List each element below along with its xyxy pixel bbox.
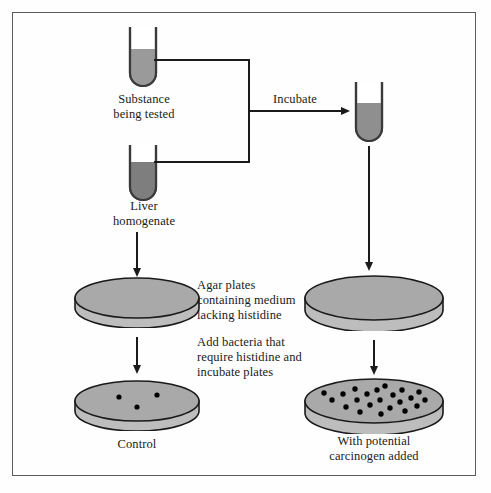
test-plate-result bbox=[303, 372, 445, 434]
liver-homogenate-tube bbox=[126, 145, 160, 203]
test-plate-empty bbox=[303, 269, 445, 331]
incubated-mixture-tube bbox=[352, 82, 386, 144]
right-incubate-arrow-line bbox=[373, 340, 375, 368]
incubate-label: Incubate bbox=[250, 92, 340, 107]
figure-root: Substance being tested Liver homogenate … bbox=[0, 0, 491, 493]
left-incubate-arrow-head bbox=[133, 365, 141, 374]
left-incubate-arrow-line bbox=[136, 337, 138, 367]
control-plate-result bbox=[73, 375, 201, 431]
left-branch-arrow-line bbox=[136, 232, 138, 270]
test-plate-label: With potential carcinogen added bbox=[303, 434, 445, 464]
bracket-top-line bbox=[154, 59, 250, 61]
liver-homogenate-label: Liver homogenate bbox=[80, 199, 208, 229]
incubate-arrow-head bbox=[341, 107, 350, 115]
incubate-arrow-line bbox=[248, 110, 344, 112]
substance-tube bbox=[126, 27, 160, 89]
control-plate-empty bbox=[73, 272, 201, 328]
substance-tube-label: Substance being tested bbox=[80, 92, 208, 122]
right-branch-arrow-line bbox=[368, 146, 370, 264]
bracket-bottom-line bbox=[154, 161, 250, 163]
control-plate-label: Control bbox=[73, 437, 201, 452]
